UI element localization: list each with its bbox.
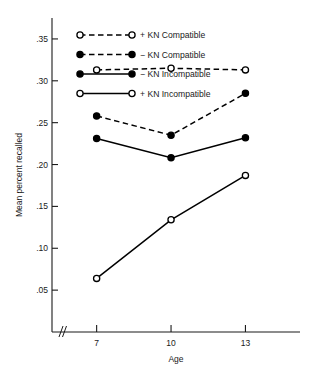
y-axis-title: Mean percent recalled [14,133,24,217]
x-tick-label: 13 [241,338,251,348]
y-tick-label: .20 [36,160,48,170]
legend-marker-icon [77,32,83,38]
chart-legend: + KN Compatible− KN Compatible− KN Incom… [77,30,211,99]
legend-entry: − KN Compatible [77,50,206,60]
x-axis-ticks: 71013 [94,325,250,348]
legend-marker-icon [77,71,83,77]
data-point-marker [168,155,174,161]
chart-figure: .05.10.15.20.25.30.35 71013 Mean percent… [0,0,315,371]
data-point-marker [94,135,100,141]
y-tick-label: .25 [36,118,48,128]
y-tick-label: .30 [36,76,48,86]
data-point-marker [94,67,100,73]
y-tick-label: .15 [36,201,48,211]
data-point-marker [94,113,100,119]
legend-entry: + KN Incompatible [77,89,211,99]
data-point-marker [242,135,248,141]
data-point-marker [242,172,248,178]
series-line [97,93,246,135]
x-axis-title: Age [168,354,183,364]
series-line [97,175,246,278]
y-tick-label: .35 [36,34,48,44]
legend-label: − KN Incompatible [140,69,211,79]
data-point-marker [242,90,248,96]
x-tick-label: 7 [94,338,99,348]
data-series [94,172,249,281]
y-tick-label: .05 [36,285,48,295]
data-point-marker [94,275,100,281]
legend-marker-icon [129,90,135,96]
legend-label: + KN Compatible [140,30,205,40]
legend-marker-icon [129,71,135,77]
legend-marker-icon [77,90,83,96]
chart-axes [52,18,300,337]
line-chart-canvas: .05.10.15.20.25.30.35 71013 Mean percent… [0,0,315,371]
x-tick-label: 10 [166,338,176,348]
legend-label: + KN Incompatible [140,89,211,99]
y-axis-ticks: .05.10.15.20.25.30.35 [36,34,58,295]
data-point-marker [242,67,248,73]
y-tick-label: .10 [36,243,48,253]
data-point-marker [168,132,174,138]
legend-marker-icon [77,51,83,57]
legend-marker-icon [129,51,135,57]
legend-marker-icon [129,32,135,38]
legend-entry: + KN Compatible [77,30,206,40]
data-point-marker [168,217,174,223]
legend-label: − KN Compatible [140,50,205,60]
